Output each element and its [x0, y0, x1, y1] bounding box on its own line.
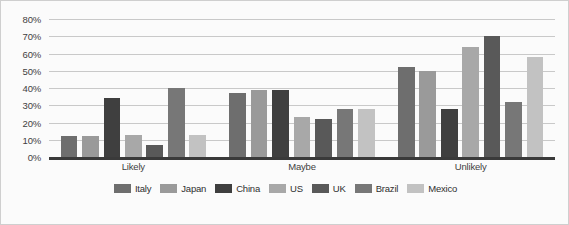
x-axis-label-maybe: Maybe — [288, 161, 316, 172]
bar-us-likely — [125, 135, 142, 157]
bar-china-likely — [104, 98, 121, 157]
bar-brazil-maybe — [337, 109, 354, 157]
bar-italy-maybe — [229, 93, 246, 157]
bar-uk-unlikely — [484, 36, 501, 157]
legend-item-mexico[interactable]: Mexico — [407, 183, 457, 194]
legend-item-italy[interactable]: Italy — [114, 183, 151, 194]
bar-japan-likely — [82, 136, 99, 157]
y-axis-tick-label: 10% — [23, 134, 41, 145]
bar-us-unlikely — [462, 47, 479, 157]
y-axis-tick-label: 60% — [23, 48, 41, 59]
bar-japan-unlikely — [419, 71, 436, 157]
legend-label: UK — [333, 183, 346, 194]
legend-swatch-italy-icon — [114, 184, 131, 193]
legend-swatch-uk-icon — [312, 184, 329, 193]
legend-swatch-japan-icon — [160, 184, 177, 193]
y-axis-tick-label: 40% — [23, 83, 41, 94]
bar-uk-maybe — [315, 119, 332, 157]
legend-item-us[interactable]: US — [269, 183, 303, 194]
legend-label: China — [236, 183, 260, 194]
bar-china-unlikely — [441, 109, 458, 157]
bar-uk-likely — [146, 145, 163, 157]
legend-swatch-us-icon — [269, 184, 286, 193]
legend-item-japan[interactable]: Japan — [160, 183, 206, 194]
legend-label: Italy — [135, 183, 151, 194]
x-axis-label-unlikely: Unlikely — [455, 161, 487, 172]
bar-us-maybe — [294, 117, 311, 157]
y-axis-tick-label: 0% — [28, 152, 41, 163]
legend-swatch-mexico-icon — [407, 184, 424, 193]
bar-mexico-maybe — [358, 109, 375, 157]
x-axis-label-likely: Likely — [122, 161, 145, 172]
x-axis-line — [49, 157, 555, 160]
bar-mexico-likely — [189, 135, 206, 157]
legend-label: Brazil — [376, 183, 399, 194]
legend-swatch-china-icon — [215, 184, 232, 193]
legend-item-brazil[interactable]: Brazil — [355, 183, 399, 194]
legend-label: US — [290, 183, 303, 194]
y-axis-tick-label: 70% — [23, 31, 41, 42]
bar-brazil-likely — [168, 88, 185, 157]
y-axis-tick-label: 80% — [23, 14, 41, 25]
chart-legend: ItalyJapanChinaUSUKBrazilMexico — [1, 183, 569, 194]
y-axis-tick-label: 30% — [23, 100, 41, 111]
legend-item-china[interactable]: China — [215, 183, 260, 194]
legend-label: Mexico — [428, 183, 457, 194]
bar-china-maybe — [272, 90, 289, 157]
bar-brazil-unlikely — [505, 102, 522, 157]
bar-mexico-unlikely — [527, 57, 544, 157]
legend-swatch-brazil-icon — [355, 184, 372, 193]
y-axis: 0%10%20%30%40%50%60%70%80% — [1, 19, 45, 157]
bars-layer — [49, 19, 555, 157]
bar-chart: 0%10%20%30%40%50%60%70%80% LikelyMaybeUn… — [0, 0, 569, 225]
bar-japan-maybe — [251, 90, 268, 157]
x-axis-category-labels: LikelyMaybeUnlikely — [49, 161, 555, 175]
legend-label: Japan — [181, 183, 206, 194]
y-axis-tick-label: 20% — [23, 117, 41, 128]
legend-item-uk[interactable]: UK — [312, 183, 346, 194]
bar-italy-unlikely — [398, 67, 415, 157]
y-axis-tick-label: 50% — [23, 65, 41, 76]
bar-italy-likely — [61, 136, 78, 157]
